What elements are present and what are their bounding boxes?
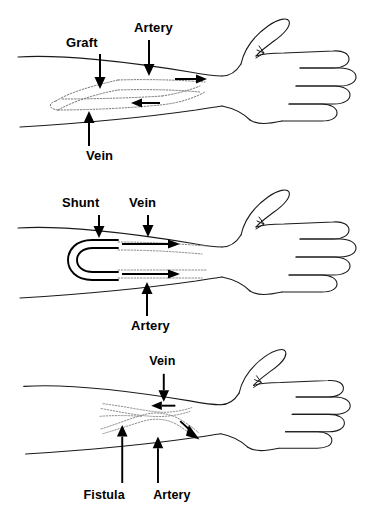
middle-finger [292,397,350,414]
wrist-upper [222,235,241,247]
panel-fistula: Vein Fistula Artery [0,340,371,510]
index-finger [256,51,349,68]
index-finger [256,222,349,239]
middle-finger [296,68,356,86]
shunt-pointer-arrows [94,215,154,316]
fistula-pointer-arrows [117,374,169,483]
wrist-lower [221,434,248,448]
palm-lower-edge [250,291,282,295]
thumb-outline [241,19,289,64]
shunt-flow-arrows [122,240,180,279]
fistula-flow-arrows [151,401,199,439]
wrist-lower [222,277,250,291]
little-finger [282,275,337,292]
index-finger [254,380,344,397]
label-artery-graft: Artery [134,20,174,35]
ring-finger [285,414,344,431]
arm-upper-edge [18,227,222,247]
palm-lower-edge [250,120,282,124]
label-fistula: Fistula [84,488,126,502]
label-vein-graft: Vein [86,148,113,163]
arm-lower-edge [20,106,222,127]
wrist-upper [221,393,239,405]
label-vein-fistula: Vein [149,354,175,368]
wrist-upper [222,64,241,76]
thumb-outline [239,350,286,394]
shunt-vessels [118,242,206,278]
little-finger [279,432,332,448]
vascular-access-figure: Graft Artery Vein [0,0,371,516]
ring-finger [289,86,350,104]
fistula-vessels [100,404,199,438]
palm-lower-edge [248,447,279,450]
arm-lower-edge [20,277,222,298]
panel-graft: Graft Artery Vein [0,0,371,170]
thumb-outline [241,190,289,235]
caption-strip [0,505,371,516]
arm-upper-edge [18,56,222,76]
wrist-lower [222,106,250,120]
arm-upper-edge [24,386,221,405]
shunt-tube [68,240,118,280]
ring-finger [289,257,350,275]
label-artery-fistula: Artery [153,488,191,502]
graft-vessel [50,80,205,110]
graft-pointer-arrows [84,40,155,146]
label-graft: Graft [66,35,98,50]
label-shunt: Shunt [62,195,100,210]
panel-shunt: Shunt Vein Artery [0,170,371,340]
little-finger [282,104,337,121]
label-artery-shunt: Artery [131,318,171,333]
middle-finger [296,239,356,257]
label-vein-shunt: Vein [129,195,156,210]
